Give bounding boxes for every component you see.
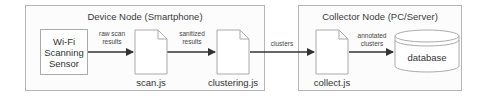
edge-label-sanitized: sanitized results	[170, 30, 214, 45]
file-icon-collect	[316, 30, 348, 74]
file-icon-scan	[135, 30, 167, 74]
scan-js-label: scan.js	[131, 77, 171, 88]
database-label: database	[395, 52, 459, 63]
edge-label-annotated: annotated clusters	[350, 32, 394, 47]
database-icon	[395, 30, 459, 72]
clustering-js-label: clustering.js	[205, 77, 261, 88]
collect-js-label: collect.js	[310, 77, 354, 88]
edge-label-raw-scan: raw scan results	[92, 30, 132, 45]
file-icon-clustering	[217, 30, 249, 74]
edge-label-clusters: clusters	[262, 40, 302, 48]
